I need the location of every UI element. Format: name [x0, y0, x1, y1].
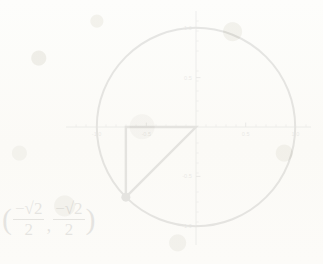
y-tick-label-neg0-5: -0.5: [182, 173, 192, 179]
terminal-point-marker: [121, 193, 130, 202]
reference-triangle: [126, 127, 196, 197]
first-coordinate-denominator: 2: [13, 220, 44, 239]
coordinate-comma: ,: [45, 205, 52, 234]
figure-canvas: -1.0 -0.5 0.5 1.0 1.0 0.5 -0.5 -1.0 (−√2…: [0, 0, 323, 264]
second-coordinate-denominator: 2: [53, 220, 84, 239]
second-coordinate-numerator: −√2: [53, 200, 84, 220]
close-paren: ): [86, 207, 96, 231]
second-coordinate-fraction: −√22: [52, 200, 85, 238]
first-coordinate-fraction: −√22: [12, 200, 45, 238]
point-coordinate-label: (−√22,−√22): [2, 200, 96, 238]
y-tick-label-0-5: 0.5: [184, 75, 192, 81]
open-paren: (: [2, 207, 12, 231]
x-tick-label-neg0-5: -0.5: [141, 131, 151, 137]
first-coordinate-numerator: −√2: [13, 200, 44, 220]
x-tick-label-0-5: 0.5: [242, 131, 250, 137]
